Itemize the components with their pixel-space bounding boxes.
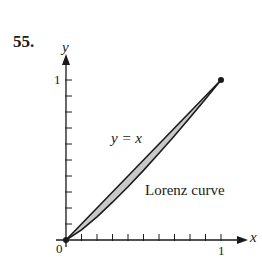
problem-number: 55. <box>13 33 34 50</box>
y-axis-label: y <box>62 40 69 55</box>
x-axis-label: x <box>250 230 257 245</box>
line-of-equality-label: y = x <box>111 131 142 146</box>
lorenz-figure: 55. y x 1 1 0 y = x Lorenz curve <box>0 0 262 259</box>
endpoint-1-1 <box>218 77 224 83</box>
line-of-equality <box>66 80 221 240</box>
origin-label: 0 <box>56 242 63 255</box>
y-tick-label-1: 1 <box>54 73 61 86</box>
curves <box>63 77 224 243</box>
y-axis-arrow-icon <box>62 54 70 65</box>
origin-point <box>63 237 69 243</box>
x-axis-arrow-icon <box>237 236 248 244</box>
lorenz-curve-label: Lorenz curve <box>145 183 225 198</box>
x-tick-label-1: 1 <box>218 244 225 257</box>
